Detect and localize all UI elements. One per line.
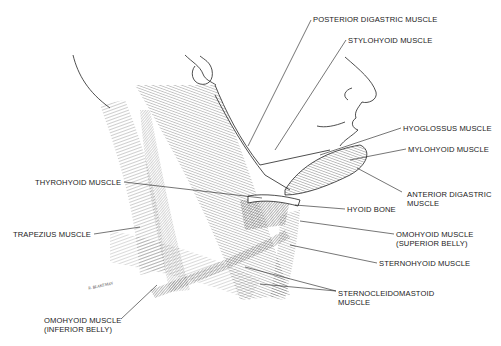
label-text: STERNOHYOID MUSCLE bbox=[379, 259, 470, 268]
label-text: (SUPERIOR BELLY) bbox=[396, 239, 473, 248]
label-text: STYLOHYOID MUSCLE bbox=[348, 36, 432, 45]
label-text: (INFERIOR BELLY) bbox=[44, 325, 121, 334]
label-text: TRAPEZIUS MUSCLE bbox=[13, 230, 91, 239]
label-text: ANTERIOR DIGASTRIC bbox=[407, 190, 492, 199]
label-omohyoid-superior-belly: OMOHYOID MUSCLE (SUPERIOR BELLY) bbox=[396, 230, 473, 248]
label-text: MYLOHYOID MUSCLE bbox=[408, 145, 489, 154]
label-text: OMOHYOID MUSCLE bbox=[396, 230, 473, 239]
label-text: STERNOCLEIDOMASTOID bbox=[338, 289, 434, 298]
label-omohyoid-inferior-belly: OMOHYOID MUSCLE (INFERIOR BELLY) bbox=[44, 316, 121, 334]
label-text: MUSCLE bbox=[338, 298, 434, 307]
label-sternohyoid-muscle: STERNOHYOID MUSCLE bbox=[379, 259, 470, 268]
ear-shape bbox=[192, 56, 212, 84]
label-text: POSTERIOR DIGASTRIC MUSCLE bbox=[313, 15, 438, 24]
label-text: HYOGLOSSUS MUSCLE bbox=[403, 124, 492, 133]
label-hyoid-bone: HYOID BONE bbox=[347, 205, 396, 214]
label-anterior-digastric-muscle: ANTERIOR DIGASTRIC MUSCLE bbox=[407, 190, 492, 208]
label-mylohyoid-muscle: MYLOHYOID MUSCLE bbox=[408, 145, 489, 154]
label-sternocleidomastoid-muscle: STERNOCLEIDOMASTOID MUSCLE bbox=[338, 289, 434, 307]
label-stylohyoid-muscle: STYLOHYOID MUSCLE bbox=[348, 36, 432, 45]
label-hyoglossus-muscle: HYOGLOSSUS MUSCLE bbox=[403, 124, 492, 133]
digastric-oval bbox=[285, 145, 367, 195]
label-thyrohyoid-muscle: THYROHYOID MUSCLE bbox=[35, 178, 121, 187]
label-text: HYOID BONE bbox=[347, 205, 396, 214]
label-text: THYROHYOID MUSCLE bbox=[35, 178, 121, 187]
label-trapezius-muscle: TRAPEZIUS MUSCLE bbox=[13, 230, 91, 239]
label-text: MUSCLE bbox=[407, 199, 492, 208]
label-text: OMOHYOID MUSCLE bbox=[44, 316, 121, 325]
label-posterior-digastric-muscle: POSTERIOR DIGASTRIC MUSCLE bbox=[313, 15, 438, 24]
